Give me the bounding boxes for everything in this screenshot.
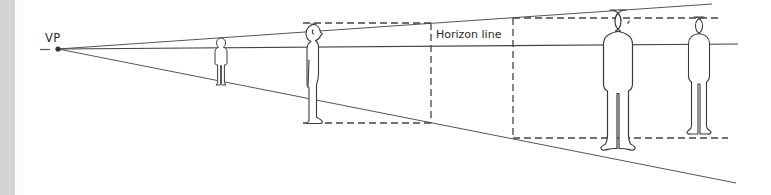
bottom-converging-line [58, 49, 736, 183]
horizon-line [58, 44, 738, 49]
perspective-diagram [0, 0, 771, 195]
vanishing-point-label: VP [45, 32, 61, 44]
right-figure [687, 17, 711, 134]
small-distant-figure [215, 38, 227, 85]
side-view-figure [306, 24, 322, 124]
measure-box-near [303, 23, 431, 123]
large-foreground-figure [601, 10, 635, 150]
vanishing-point-dot [55, 46, 60, 51]
horizon-line-label: Horizon line [435, 29, 502, 41]
